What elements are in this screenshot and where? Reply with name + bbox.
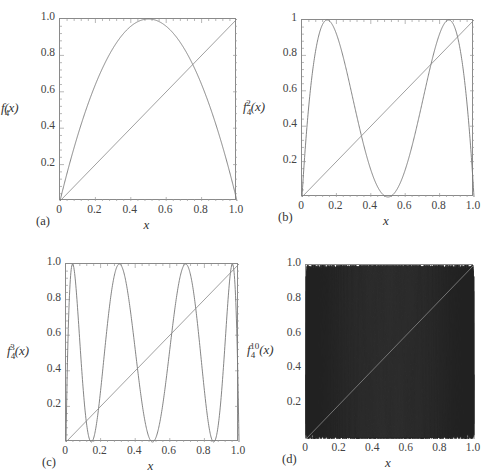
y-tick-label: 0.8 — [271, 291, 301, 303]
panel-label: (c) — [42, 455, 56, 470]
diagonal-line — [66, 264, 239, 442]
x-tick-label: 1.0 — [223, 444, 253, 456]
x-tick-label: 0.2 — [79, 203, 109, 215]
y-tick-label: 0.6 — [25, 83, 55, 95]
y-axis-label: f43(x) — [7, 342, 29, 361]
y-tick-label: 1 — [267, 11, 297, 23]
y-tick-label: 0.6 — [267, 82, 297, 94]
panel-label: (d) — [282, 452, 297, 467]
plot-area-c — [65, 263, 238, 441]
y-tick-label: 1.0 — [271, 256, 301, 268]
x-tick-label: 0.2 — [320, 199, 350, 211]
x-tick-label: 0.6 — [150, 203, 180, 215]
x-tick-label: 0.6 — [391, 441, 421, 453]
panel-label: (a) — [36, 214, 50, 229]
x-tick-label: 0.8 — [424, 199, 454, 211]
y-label-subscript: 4 — [251, 350, 256, 360]
plot-svg-d — [306, 265, 474, 439]
y-label-argument: (x) — [4, 100, 18, 115]
y-label-argument: (x) — [15, 343, 29, 358]
x-tick-label: 1.0 — [458, 199, 488, 211]
x-tick-label: 1.0 — [221, 203, 251, 215]
x-tick-label: 0.6 — [154, 444, 184, 456]
y-tick-label: 0.4 — [31, 362, 61, 374]
x-tick-label: 0.2 — [85, 444, 115, 456]
y-tick-label: 1.0 — [31, 255, 61, 267]
x-tick-label: 0.4 — [115, 203, 145, 215]
x-tick-label: 0.8 — [424, 441, 454, 453]
plot-area-a — [59, 18, 236, 200]
y-tick-label: 1.0 — [25, 10, 55, 22]
x-axis-label: x — [148, 458, 154, 474]
y-tick-label: 0.4 — [271, 360, 301, 372]
y-label-argument: (x) — [251, 99, 265, 114]
y-tick-label: 0.2 — [31, 397, 61, 409]
diagonal-line — [60, 19, 237, 201]
x-axis-label: x — [385, 455, 391, 471]
x-tick-label: 0.2 — [324, 441, 354, 453]
y-tick-label: 0.8 — [267, 46, 297, 58]
y-axis-label: f42(x) — [243, 98, 265, 117]
x-tick-label: 1.0 — [458, 441, 488, 453]
y-tick-label: 0.6 — [271, 326, 301, 338]
y-tick-label: 0.2 — [271, 395, 301, 407]
y-tick-label: 0.8 — [31, 291, 61, 303]
x-tick-label: 0.8 — [188, 444, 218, 456]
plot-svg-a — [60, 19, 237, 201]
y-tick-label: 0.4 — [25, 119, 55, 131]
y-tick-label: 0.8 — [25, 46, 55, 58]
y-label-superscript: 10 — [250, 341, 259, 351]
x-axis-label: x — [144, 217, 150, 233]
y-tick-label: 0.6 — [31, 326, 61, 338]
x-axis-label: x — [383, 213, 389, 229]
y-axis-label: f410(x) — [247, 341, 274, 360]
x-tick-label: 0.4 — [357, 441, 387, 453]
y-tick-label: 0.2 — [267, 153, 297, 165]
x-tick-label: 0.8 — [186, 203, 216, 215]
x-tick-label: 0.4 — [355, 199, 385, 211]
y-label-argument: (x) — [259, 342, 273, 357]
diagonal-line — [302, 20, 474, 197]
plot-svg-b — [302, 20, 474, 197]
plot-area-b — [301, 19, 473, 196]
x-tick-label: 0.4 — [119, 444, 149, 456]
y-tick-label: 0.2 — [25, 156, 55, 168]
panel-label: (b) — [278, 210, 293, 225]
y-tick-label: 0.4 — [267, 117, 297, 129]
x-tick-label: 0.6 — [389, 199, 419, 211]
y-axis-label: f4(x) — [1, 99, 19, 118]
plot-area-d — [305, 264, 473, 438]
plot-svg-c — [66, 264, 239, 442]
